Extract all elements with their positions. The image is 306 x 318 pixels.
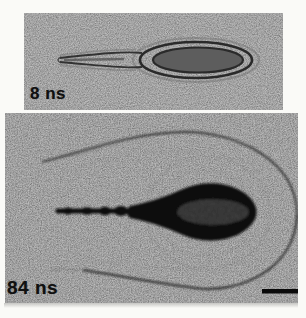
time-label-84ns: 84 ns	[7, 278, 58, 297]
figure-page: 8 ns	[0, 0, 306, 318]
photo-frame-8ns: 8 ns	[24, 13, 283, 110]
scale-bar	[262, 289, 298, 294]
photo-frame-84ns: 84 ns	[5, 113, 298, 303]
photo-84ns-canvas	[5, 113, 298, 303]
photo-edge-shadow	[4, 303, 298, 308]
time-label-8ns: 8 ns	[30, 85, 66, 102]
